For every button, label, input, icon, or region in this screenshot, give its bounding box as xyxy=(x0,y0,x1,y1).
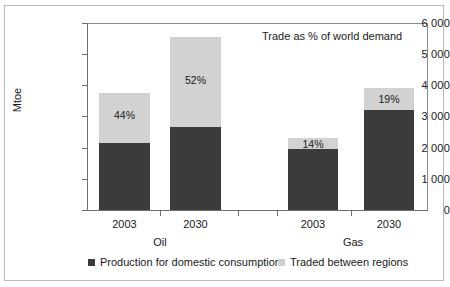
bar-segment-production-gas-2003 xyxy=(288,149,338,210)
y-tick-label-6000: 6 000 xyxy=(398,17,450,29)
y-tick-mark-6000 xyxy=(82,23,87,24)
x-tick-label-oil-2030: 2030 xyxy=(170,218,221,230)
y-axis-title: Mtoe xyxy=(11,70,23,130)
x-tick-label-oil-2003: 2003 xyxy=(99,218,150,230)
bar-label-oil-2003: 44% xyxy=(99,109,150,121)
group-label-oil: Oil xyxy=(120,236,200,248)
bar-segment-production-gas-2030 xyxy=(364,110,414,210)
bar-oil-2003: 44% xyxy=(99,93,150,210)
y-tick-mark-3000 xyxy=(82,116,87,117)
bar-segment-production-oil-2030 xyxy=(170,127,221,210)
bar-segment-production-oil-2003 xyxy=(99,143,150,210)
chart-annotation: Trade as % of world demand xyxy=(262,30,402,42)
legend-item-production: Production for domestic consumption xyxy=(88,256,281,268)
legend-swatch-production-icon xyxy=(88,259,95,266)
bar-gas-2003: 14% xyxy=(288,138,338,210)
y-axis-line xyxy=(87,23,88,211)
y-tick-mark-1000 xyxy=(82,179,87,180)
y-tick-label-5000: 5 000 xyxy=(398,48,450,60)
legend-label-traded: Traded between regions xyxy=(290,256,408,268)
y-tick-mark-4000 xyxy=(82,85,87,86)
x-axis-line xyxy=(87,210,428,211)
bar-gas-2030: 19% xyxy=(364,88,414,210)
x-tick-mark-4 xyxy=(351,211,352,216)
legend-label-production: Production for domestic consumption xyxy=(100,256,281,268)
bar-oil-2030: 52% xyxy=(170,37,221,210)
x-tick-mark-2 xyxy=(238,211,239,216)
legend-item-traded: Traded between regions xyxy=(278,256,408,268)
legend-swatch-traded-icon xyxy=(278,259,285,266)
y-tick-mark-0 xyxy=(82,210,87,211)
x-tick-mark-3 xyxy=(277,211,278,216)
chart-figure: Mtoe 6 000 5 000 4 000 3 000 2 000 1 000… xyxy=(0,0,450,287)
x-tick-label-gas-2003: 2003 xyxy=(288,218,338,230)
x-tick-label-gas-2030: 2030 xyxy=(364,218,414,230)
bar-label-gas-2030: 19% xyxy=(364,93,414,105)
bar-label-oil-2030: 52% xyxy=(170,74,221,86)
y-tick-mark-5000 xyxy=(82,54,87,55)
x-tick-mark-1 xyxy=(160,211,161,216)
y-tick-mark-2000 xyxy=(82,148,87,149)
group-label-gas: Gas xyxy=(313,236,393,248)
